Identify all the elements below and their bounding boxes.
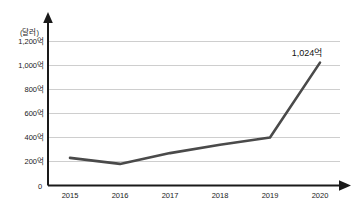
y-axis (43, 12, 53, 186)
data-point-label-2020: 1,024억 (292, 47, 323, 58)
y-tick-label-400: 400억 (24, 133, 44, 142)
chart-canvas: 200억 400억 600억 800억 1,000억 1,200억 (달러) 0… (0, 0, 357, 215)
x-tick-label-2020: 2020 (312, 191, 329, 200)
x-axis-arrow-icon (339, 180, 351, 191)
y-tick-label-800: 800억 (24, 85, 44, 94)
gridlines (48, 42, 340, 162)
y-tick-label-1200: 1,200억 (18, 37, 44, 46)
y-tick-label-600: 600억 (24, 109, 44, 118)
origin-label: 0 (38, 182, 42, 191)
x-tick-label-2017: 2017 (162, 191, 179, 200)
x-tick-labels: 2015 2016 2017 2018 2019 2020 (62, 191, 329, 200)
line-chart: 200억 400억 600억 800억 1,000억 1,200억 (달러) 0… (0, 0, 357, 215)
y-axis-unit-label: (달러) (20, 28, 39, 37)
x-tick-label-2018: 2018 (212, 191, 229, 200)
x-tick-label-2016: 2016 (112, 191, 129, 200)
x-tick-label-2019: 2019 (262, 191, 279, 200)
y-axis-arrow-icon (43, 12, 53, 23)
y-tick-labels: 200억 400억 600억 800억 1,000억 1,200억 (18, 37, 44, 166)
y-tick-label-1000: 1,000억 (18, 61, 44, 70)
x-axis (48, 180, 351, 191)
y-tick-label-200: 200억 (24, 157, 44, 166)
x-tick-label-2015: 2015 (62, 191, 79, 200)
